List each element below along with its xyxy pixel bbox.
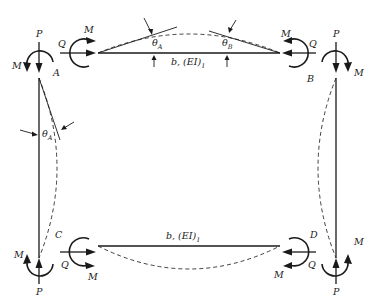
p-label-d: P — [332, 286, 340, 297]
m-label-b: M — [353, 67, 364, 78]
right-column-deflection — [318, 78, 336, 258]
p-label-c: P — [35, 286, 43, 297]
axial-force-arrow-b-head — [333, 63, 340, 73]
theta-b-top-label: θB — [222, 37, 233, 51]
joint-a-forces: P M A — [11, 28, 60, 78]
beam-end-a-forces: Q M — [58, 24, 96, 67]
beam-end-b-forces: Q M — [280, 28, 317, 67]
shear-force-arrow-d-head — [282, 249, 292, 256]
beam-end-d-forces: Q M — [273, 238, 316, 280]
q-label-d: Q — [308, 259, 316, 270]
beam-moment-arc-a-head — [86, 37, 96, 44]
joint-label-d: D — [309, 229, 318, 240]
theta-b-arrow-bottom-head — [225, 55, 230, 60]
q-label-a: Q — [58, 38, 66, 49]
moment-arc-a-head — [23, 62, 31, 72]
m-label-c-beam: M — [87, 271, 98, 282]
top-beam-deflection — [98, 34, 280, 53]
portal-frame-diagram: θA θB b, (EI)1 θA b, (EI)1 P M A Q M P M… — [0, 0, 379, 298]
moment-arc-d-head — [344, 254, 352, 264]
q-label-b: Q — [309, 38, 317, 49]
moment-arc-c-head — [23, 254, 31, 264]
theta-a-arrow-bottom-head — [152, 55, 157, 60]
m-label-d-beam: M — [273, 269, 284, 280]
joint-label-b: B — [306, 73, 314, 84]
beam-moment-arc-d-head — [283, 262, 292, 269]
m-label-a-beam: M — [83, 24, 94, 35]
m-label-d: M — [353, 236, 364, 247]
theta-a-left-arrow-head — [32, 132, 38, 137]
theta-a-arrow-top-head — [148, 29, 153, 35]
beam-end-c-forces: Q M — [60, 238, 98, 282]
top-beam-label: b, (EI)1 — [171, 56, 205, 70]
shear-force-arrow-c-head — [86, 249, 96, 256]
axial-force-arrow-c-head — [36, 258, 43, 268]
axial-force-arrow-a-head — [36, 63, 43, 73]
bottom-beam-deflection — [98, 246, 280, 269]
joint-label-c: C — [55, 229, 63, 240]
m-label-c: M — [13, 249, 24, 260]
moment-arc-b-head — [344, 62, 352, 72]
q-label-c: Q — [61, 259, 69, 270]
theta-b-arrow-top-head — [228, 27, 233, 33]
tangent-line-b — [209, 31, 280, 53]
tangent-line-a — [98, 27, 177, 53]
beam-moment-arc-c-head — [85, 262, 95, 269]
shear-force-arrow-b-head — [282, 50, 292, 57]
shear-force-arrow-a-head — [86, 50, 96, 57]
m-label-a: M — [11, 60, 22, 71]
bottom-beam-label: b, (EI)1 — [166, 230, 200, 244]
p-label-a: P — [35, 28, 43, 39]
m-label-b-beam: M — [280, 28, 291, 39]
joint-c-forces: P M C — [13, 229, 63, 297]
theta-a-top-label: θA — [152, 37, 163, 51]
theta-a-right-arrow-head — [61, 125, 67, 130]
theta-a-left-arrow — [20, 130, 34, 134]
p-label-b: P — [332, 28, 340, 39]
theta-a-left-label: θA — [42, 128, 53, 142]
joint-label-a: A — [52, 67, 60, 78]
axial-force-arrow-d-head — [333, 258, 340, 268]
joint-b-forces: P M B — [306, 28, 364, 84]
